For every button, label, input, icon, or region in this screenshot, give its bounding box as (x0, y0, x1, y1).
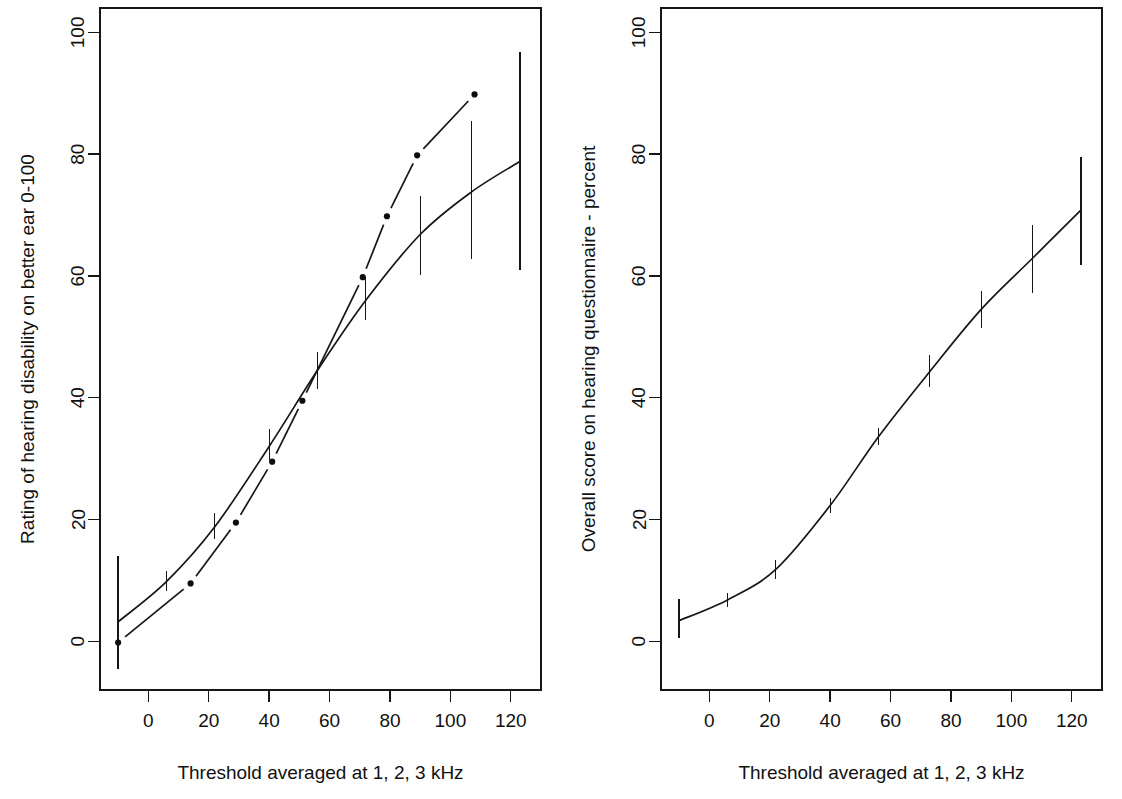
x-tick-label: 60 (319, 710, 340, 731)
x-tick-label: 0 (143, 710, 154, 731)
x-tick-label: 100 (996, 710, 1028, 731)
y-tick-label: 80 (68, 144, 89, 165)
error-bar-group (679, 157, 1081, 638)
chart-panel-right: 020406080100120020406080100Threshold ave… (561, 0, 1122, 799)
y-tick-label: 60 (68, 265, 89, 286)
y-tick-label: 40 (629, 387, 650, 408)
broken-line-segment (241, 469, 268, 514)
x-tick-label: 0 (704, 710, 715, 731)
data-point (233, 519, 239, 525)
y-tick-label: 40 (68, 387, 89, 408)
broken-line-group (125, 101, 468, 637)
broken-line-segment (391, 163, 413, 208)
broken-line-segment (366, 225, 384, 269)
error-bar-group (118, 52, 520, 669)
data-point (384, 213, 390, 219)
data-point (414, 152, 420, 158)
broken-line-segment (423, 101, 468, 149)
plot-frame (661, 8, 1102, 690)
data-point (360, 274, 366, 280)
right-panel-svg: 020406080100120020406080100Threshold ave… (561, 0, 1122, 799)
data-point (299, 398, 305, 404)
x-tick-label: 100 (435, 710, 467, 731)
broken-line-segment (196, 530, 231, 576)
y-tick-label: 0 (68, 636, 89, 647)
y-axis-title: Rating of hearing disability on better e… (17, 154, 38, 544)
x-tick-label: 40 (259, 710, 280, 731)
x-tick-label: 20 (759, 710, 780, 731)
y-tick-label: 80 (629, 144, 650, 165)
x-tick-label: 80 (379, 710, 400, 731)
x-axis-title: Threshold averaged at 1, 2, 3 kHz (738, 762, 1024, 783)
y-tick-label: 60 (629, 265, 650, 286)
y-tick-label: 100 (629, 17, 650, 49)
left-panel-svg: 020406080100120020406080100Threshold ave… (0, 0, 561, 799)
data-point-group (115, 91, 478, 645)
broken-line-segment (125, 589, 184, 637)
y-tick-label: 20 (629, 509, 650, 530)
data-point (115, 639, 121, 645)
data-point (188, 580, 194, 586)
y-tick-label: 20 (68, 509, 89, 530)
x-tick-label: 120 (1056, 710, 1088, 731)
y-tick-label: 0 (629, 636, 650, 647)
chart-panel-left: 020406080100120020406080100Threshold ave… (0, 0, 561, 799)
x-tick-label: 120 (495, 710, 527, 731)
broken-line-segment (306, 285, 359, 392)
x-tick-label: 60 (880, 710, 901, 731)
data-point (471, 91, 477, 97)
x-axis-title: Threshold averaged at 1, 2, 3 kHz (177, 762, 463, 783)
data-point (269, 459, 275, 465)
y-tick-label: 100 (68, 17, 89, 49)
x-tick-label: 40 (820, 710, 841, 731)
fitted-curve (679, 210, 1081, 620)
y-axis-title: Overall score on hearing questionnaire -… (578, 145, 599, 552)
fitted-curve (118, 161, 520, 621)
x-tick-label: 20 (198, 710, 219, 731)
figure-container: 020406080100120020406080100Threshold ave… (0, 0, 1122, 799)
x-tick-label: 80 (940, 710, 961, 731)
